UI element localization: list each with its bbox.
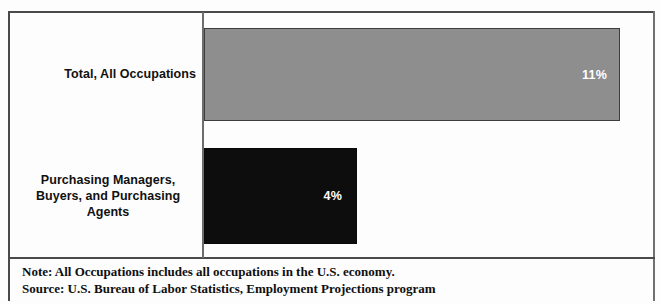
category-label-purchasing-line-3: Agents [87,205,130,219]
plot-area: 11% 4% Total, All Occupations Purchasing… [0,0,661,258]
category-label-total-line-1: Total, All Occupations [64,67,196,81]
footer-note: Note: All Occupations includes all occup… [22,263,642,280]
category-label-total-all-occupations: Total, All Occupations [20,66,196,82]
footer-source: Source: U.S. Bureau of Labor Statistics,… [22,280,642,297]
category-label-purchasing-line-2: Buyers, and Purchasing [36,189,180,203]
chart-footer: Note: All Occupations includes all occup… [22,263,642,297]
bar-value-label-total: 11% [582,68,607,82]
bar-total-all-occupations[interactable]: 11% [204,28,620,121]
bar-chart-figure: 11% 4% Total, All Occupations Purchasing… [0,0,661,304]
bar-value-label-purchasing: 4% [324,189,342,203]
bar-purchasing-managers[interactable]: 4% [204,148,357,244]
category-label-purchasing-managers: Purchasing Managers, Buyers, and Purchas… [20,172,196,220]
category-label-purchasing-line-1: Purchasing Managers, [41,173,175,187]
